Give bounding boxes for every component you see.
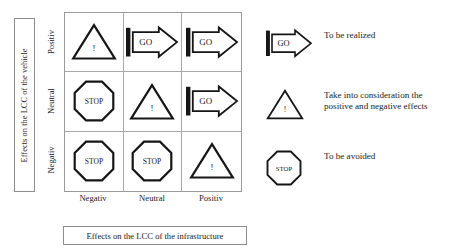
matrix-cell[interactable]: ! — [182, 132, 241, 191]
row-label-text: Neutral — [46, 88, 56, 114]
x-axis-title-box: Effects on the LCC of the infrastructure — [63, 226, 247, 245]
legend-item-go: GO To be realized — [266, 29, 375, 58]
row-label-positiv: Positiv — [40, 12, 62, 71]
svg-text:STOP: STOP — [85, 157, 103, 166]
svg-text:STOP: STOP — [85, 97, 103, 106]
stop-octagon-icon: STOP — [266, 150, 324, 186]
matrix-cell[interactable]: GO — [182, 13, 241, 72]
col-label-negativ: Negativ — [64, 193, 122, 207]
legend-item-text: To be avoided — [324, 150, 375, 162]
matrix-cell[interactable]: GO — [182, 72, 241, 131]
matrix-cell[interactable]: ! — [65, 13, 124, 72]
matrix-cell[interactable]: STOP — [65, 132, 124, 191]
figure-root: Effects on the LCC of the vehicle Positi… — [0, 0, 455, 249]
svg-text:GO: GO — [199, 37, 212, 47]
svg-text:STOP: STOP — [276, 165, 293, 172]
legend-item-text: Take into consideration thepositive and … — [324, 89, 428, 112]
matrix-cell[interactable]: ! — [124, 72, 183, 131]
svg-text:GO: GO — [199, 96, 212, 106]
legend-item-stop: STOP To be avoided — [266, 150, 375, 186]
go-arrow-icon: GO — [266, 29, 324, 58]
matrix-cell[interactable]: STOP — [65, 72, 124, 131]
legend-item-warning: ! Take into consideration thepositive an… — [266, 89, 428, 120]
matrix-cell[interactable]: STOP — [124, 132, 183, 191]
row-label-negativ: Negativ — [40, 130, 62, 189]
svg-text:GO: GO — [277, 39, 289, 48]
row-label-neutral: Neutral — [40, 71, 62, 130]
svg-text:!: ! — [151, 103, 154, 113]
x-axis-title: Effects on the LCC of the infrastructure — [87, 231, 224, 241]
decision-matrix: ! GO GO STOP ! GO STOP STOP ! — [64, 12, 242, 192]
row-label-text: Positiv — [46, 30, 56, 54]
svg-text:!: ! — [92, 43, 95, 53]
y-axis-title: Effects on the LCC of the vehicle — [20, 48, 29, 162]
svg-text:!: ! — [210, 162, 213, 172]
legend-item-text: To be realized — [324, 29, 375, 41]
y-axis-title-box: Effects on the LCC of the vehicle — [14, 18, 35, 192]
matrix-cell[interactable]: GO — [124, 13, 183, 72]
svg-text:!: ! — [284, 105, 287, 114]
col-label-positiv: Positiv — [182, 193, 240, 207]
legend: GO To be realized ! Take into considerat… — [266, 0, 455, 249]
row-label-text: Negativ — [46, 146, 56, 173]
svg-text:STOP: STOP — [143, 157, 161, 166]
col-label-neutral: Neutral — [123, 193, 181, 207]
svg-text:GO: GO — [140, 37, 153, 47]
warning-triangle-icon: ! — [266, 89, 324, 120]
